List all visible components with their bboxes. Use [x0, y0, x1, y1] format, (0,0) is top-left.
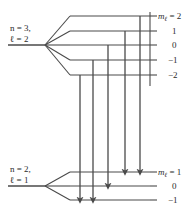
- upper-mlabel-m0-value: 0: [172, 40, 177, 50]
- lower-state-label-line2: ℓ = 1: [10, 175, 31, 186]
- energy-level-diagram: n = 3, ℓ = 2 n = 2, ℓ = 1 mℓ = 2 1 0 −1 …: [0, 0, 192, 216]
- upper-mlabel-mn2-value: −2: [168, 70, 178, 80]
- upper-mlabel-m2-value: = 2: [169, 11, 181, 21]
- upper-mlabel-mn1: −1: [168, 55, 178, 65]
- upper-mlabel-m2: mℓ = 2: [158, 11, 181, 24]
- lower-state-label-line1: n = 2,: [10, 164, 31, 175]
- upper-fan-leg-m1: [45, 31, 70, 45]
- lower-fan-leg-mn1: [45, 186, 70, 200]
- upper-mlabel-m1: 1: [172, 26, 177, 36]
- upper-fan-leg-m2: [45, 16, 70, 45]
- lower-fan-leg-m1: [45, 172, 70, 186]
- lower-mlabel-m0-value: 0: [172, 181, 177, 191]
- lower-mlabel-m1: mℓ = 1: [158, 167, 181, 180]
- upper-mlabel-m0: 0: [172, 40, 177, 50]
- upper-state-label-line1: n = 3,: [10, 23, 31, 34]
- upper-state-label: n = 3, ℓ = 2: [10, 23, 31, 45]
- lower-state-label: n = 2, ℓ = 1: [10, 164, 31, 186]
- upper-fan-leg-mn1: [45, 45, 70, 60]
- lower-mlabel-mn1-value: −1: [168, 195, 178, 205]
- upper-state-label-line2: ℓ = 2: [10, 34, 31, 45]
- lower-mlabel-m0: 0: [172, 181, 177, 191]
- lower-mlabel-mn1: −1: [168, 195, 178, 205]
- upper-fan-leg-mn2: [45, 45, 70, 75]
- upper-mlabel-mn1-value: −1: [168, 55, 178, 65]
- upper-mlabel-m1-value: 1: [172, 26, 177, 36]
- upper-mlabel-mn2: −2: [168, 70, 178, 80]
- lower-mlabel-m1-value: = 1: [169, 167, 181, 177]
